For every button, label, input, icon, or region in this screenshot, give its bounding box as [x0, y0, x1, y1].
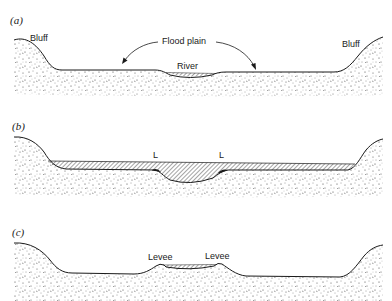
panel-b: (b) L L [12, 120, 383, 197]
levee-left-letter: L [153, 150, 158, 160]
panel-a-label: (a) [10, 14, 23, 27]
flood-plain-arrow-left [122, 42, 158, 64]
panel-a: (a) Bluff Bluff Flood plain River [0, 14, 392, 98]
bluff-left-label: Bluff [30, 33, 48, 43]
levee-right-letter: L [219, 150, 224, 160]
levee-left-label: Levee [148, 252, 173, 262]
panel-c-sediment [14, 243, 383, 301]
panel-c: (c) Levee Levee [12, 226, 383, 301]
river-label: River [177, 61, 198, 71]
levee-right-label: Levee [205, 251, 230, 261]
floodplain-diagram: (a) Bluff Bluff Flood plain River (b) L … [0, 0, 392, 301]
flood-plain-label: Flood plain [162, 36, 206, 46]
flood-plain-arrow-right [216, 42, 256, 70]
bluff-right-label: Bluff [342, 39, 360, 49]
panel-c-label: (c) [12, 226, 25, 239]
panel-b-label: (b) [12, 120, 25, 133]
